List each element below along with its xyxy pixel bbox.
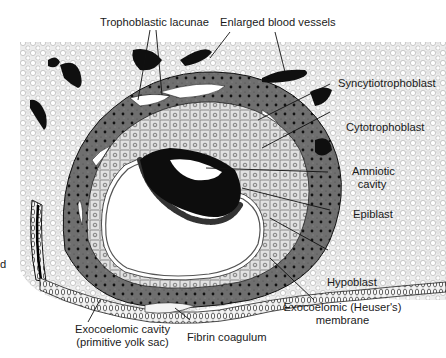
label-amniotic-cavity-line1: Amniotic (352, 165, 392, 178)
label-epiblast: Epiblast (353, 208, 393, 221)
label-enlarged-blood-vessels: Enlarged blood vessels (220, 16, 336, 29)
label-trophoblastic-lacunae: Trophoblastic lacunae (100, 16, 209, 29)
label-exocoelomic-cavity: Exocoelomic cavity (primitive yolk sac) (70, 323, 175, 349)
label-fibrin-coagulum: Fibrin coagulum (187, 331, 267, 344)
label-exocoelomic-cavity-line1: Exocoelomic cavity (70, 323, 175, 336)
label-exocoelomic-membrane-line1: Exocoelomic (Heuser's) (280, 301, 405, 314)
label-cytotrophoblast: Cytotrophoblast (346, 121, 424, 134)
label-exocoelomic-cavity-line2: (primitive yolk sac) (70, 336, 175, 349)
label-amniotic-cavity: Amniotic cavity (352, 165, 392, 191)
blastocyst-diagram: Trophoblastic lacunae Enlarged blood ves… (0, 0, 446, 358)
label-amniotic-cavity-line2: cavity (352, 178, 392, 191)
label-exocoelomic-membrane-line2: membrane (280, 314, 405, 327)
label-exocoelomic-membrane: Exocoelomic (Heuser's) membrane (280, 301, 405, 327)
label-hypoblast: Hypoblast (327, 276, 377, 289)
label-syncytiotrophoblast: Syncytiotrophoblast (338, 77, 436, 90)
label-edge-mark: d (0, 258, 6, 271)
fibrin-coagulum (145, 303, 195, 313)
